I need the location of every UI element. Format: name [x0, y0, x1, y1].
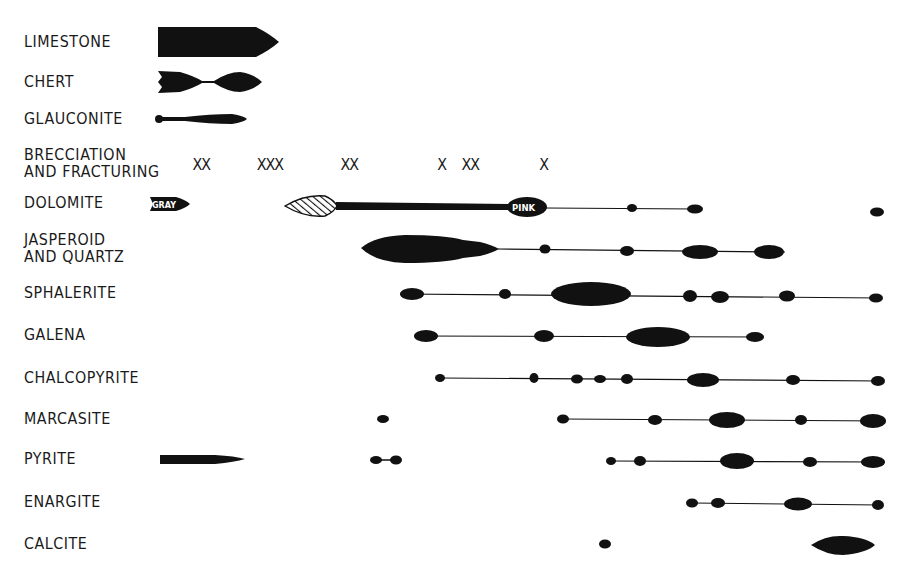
enargite-bar — [686, 498, 884, 511]
dolomite-bar: GRAY PINK — [150, 196, 884, 217]
sphalerite-bar — [400, 282, 883, 306]
calcite-bar — [599, 536, 875, 555]
chert-bar — [158, 71, 262, 93]
galena-bar — [414, 327, 764, 347]
chalcopyrite-bar — [435, 373, 885, 387]
dolomite-gray-annotation: GRAY — [152, 201, 176, 210]
pyrite-bar — [160, 453, 885, 469]
paragenetic-diagram: GRAY PINK — [0, 0, 907, 575]
limestone-bar — [158, 27, 279, 57]
dolomite-pink-annotation: PINK — [512, 203, 536, 213]
glauconite-bar — [155, 114, 247, 124]
marcasite-bar — [377, 412, 886, 428]
jasperoid-bar — [361, 235, 785, 263]
